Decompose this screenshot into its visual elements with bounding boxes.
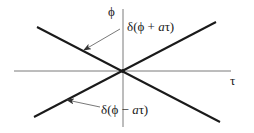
- arrow-phi-plus-a-tau: [84, 29, 120, 50]
- origin-point: [121, 69, 125, 73]
- label-plus-suffix: τ): [165, 19, 175, 34]
- tau-axis-label-text: τ: [230, 73, 235, 88]
- arrow-phi-minus-a-tau: [67, 100, 100, 107]
- tau-axis-label: τ: [230, 74, 235, 87]
- label-phi-plus-a-tau: δ(ϕ + aτ): [127, 20, 174, 33]
- label-minus-prefix: δ(ϕ −: [101, 102, 132, 117]
- label-plus-prefix: δ(ϕ +: [127, 19, 158, 34]
- label-minus-suffix: τ): [139, 102, 149, 117]
- phi-axis-label-text: ϕ: [108, 4, 115, 19]
- phi-axis-label: ϕ: [108, 5, 115, 18]
- diagram-canvas: ϕ τ δ(ϕ + aτ) δ(ϕ − aτ): [0, 0, 254, 133]
- label-phi-minus-a-tau: δ(ϕ − aτ): [101, 103, 148, 116]
